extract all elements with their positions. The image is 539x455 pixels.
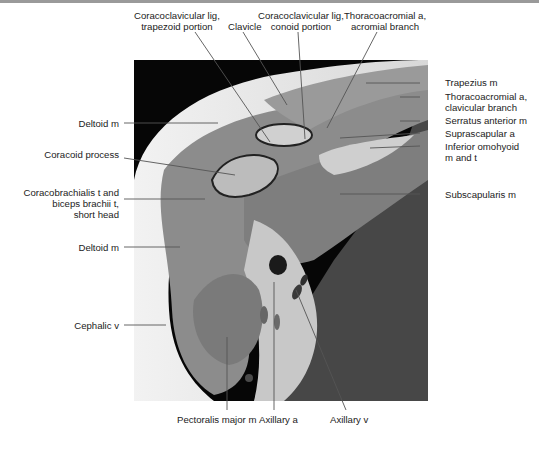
label-subscapularis: Subscapularis m <box>445 189 516 200</box>
label-inferior-omohyoid: Inferior omohyoid m and t <box>445 141 519 163</box>
label-coracobrachialis: Coracobrachialis t and biceps brachii t,… <box>24 187 119 220</box>
label-coracoclavicular-conoid: Coracoclavicular lig, conoid portion <box>258 10 344 32</box>
label-trapezius: Trapezius m <box>445 77 497 88</box>
label-thoracoacromial-clavicular: Thoracoacromial a, clavicular branch <box>445 91 527 113</box>
label-thoracoacromial-acromial: Thoracoacromial a, acromial branch <box>344 10 426 32</box>
label-pectoralis-major: Pectoralis major m <box>177 414 256 425</box>
leader-lines <box>0 0 539 455</box>
label-axillary-vein: Axillary v <box>330 414 368 425</box>
label-axillary-artery: Axillary a <box>259 414 298 425</box>
label-deltoid-lower: Deltoid m <box>78 242 119 253</box>
label-coracoclavicular-trapezoid: Coracoclavicular lig, trapezoid portion <box>134 10 220 32</box>
label-deltoid-upper: Deltoid m <box>78 118 119 129</box>
label-cephalic-vein: Cephalic v <box>74 320 119 331</box>
label-clavicle: Clavicle <box>228 21 262 32</box>
label-coracoid-process: Coracoid process <box>44 149 119 160</box>
label-suprascapular: Suprascapular a <box>445 128 515 139</box>
label-serratus-anterior: Serratus anterior m <box>445 115 527 126</box>
